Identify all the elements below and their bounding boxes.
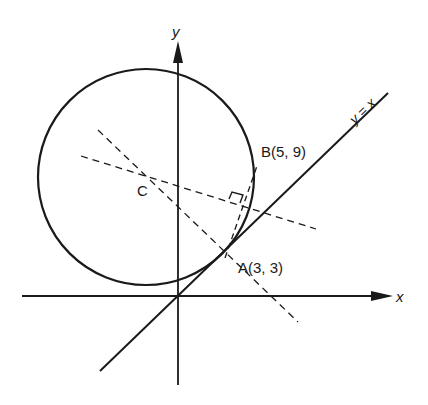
y-axis: y	[171, 23, 183, 385]
point-c-label: C	[137, 182, 148, 199]
circle-tangent-diagram: x y y = x B(5, 9) A(3, 3) C	[0, 0, 428, 405]
line-y-equals-x: y = x	[100, 93, 388, 371]
x-axis: x	[22, 288, 404, 305]
x-axis-label: x	[395, 288, 404, 305]
point-a-label: A(3, 3)	[238, 259, 283, 276]
y-axis-label: y	[171, 23, 181, 40]
right-angle-marker	[229, 192, 243, 203]
chord-ab	[225, 166, 257, 258]
line-y-equals-x-label: y = x	[345, 94, 379, 128]
y-axis-arrow-icon	[173, 41, 183, 63]
perpendicular-bisector-ab	[81, 156, 316, 229]
x-axis-arrow-icon	[371, 291, 393, 301]
point-b-label: B(5, 9)	[261, 143, 306, 160]
